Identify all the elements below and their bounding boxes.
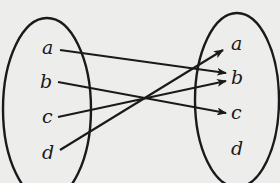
domain-labels: a b c d bbox=[40, 36, 54, 163]
codomain-labels: a b c d bbox=[231, 32, 243, 159]
mapping-arrows bbox=[58, 50, 226, 150]
domain-element-a: a bbox=[42, 36, 53, 58]
mapping-diagram: a b c d a b c d bbox=[0, 0, 280, 183]
codomain-element-c: c bbox=[231, 101, 242, 123]
codomain-element-a: a bbox=[231, 32, 242, 54]
codomain-element-d: d bbox=[231, 137, 243, 159]
codomain-element-b: b bbox=[231, 66, 243, 88]
domain-element-c: c bbox=[42, 105, 53, 127]
domain-element-d: d bbox=[42, 141, 54, 163]
diagram-canvas: a b c d a b c d bbox=[0, 0, 280, 183]
domain-element-b: b bbox=[40, 70, 52, 92]
